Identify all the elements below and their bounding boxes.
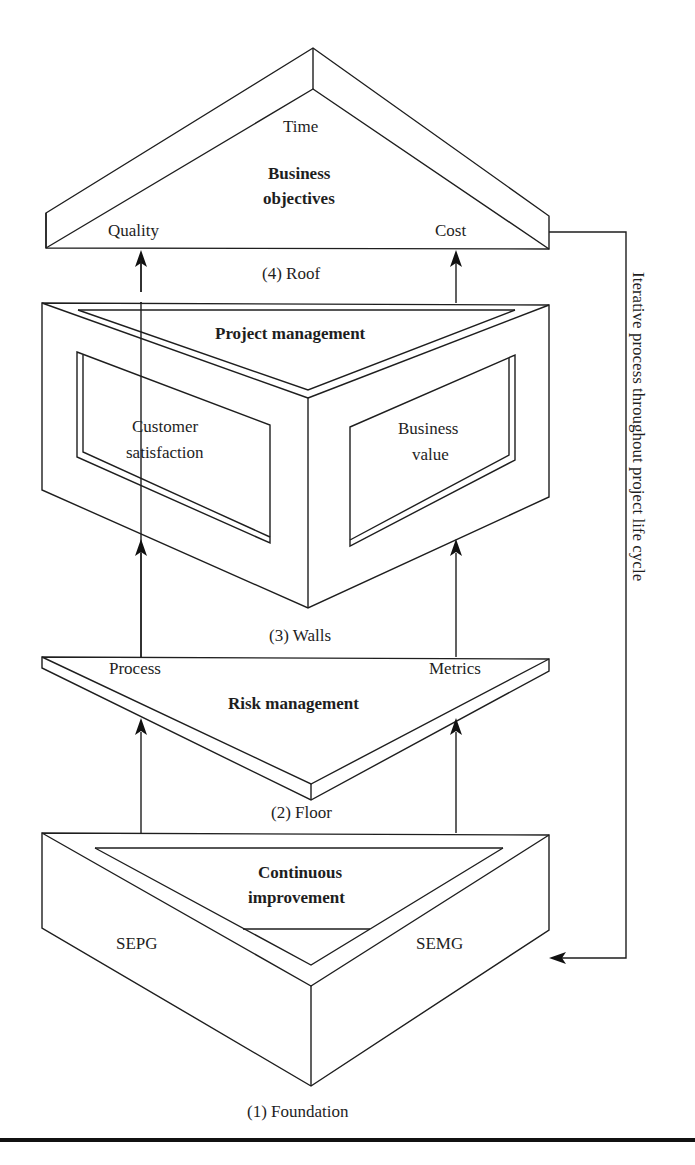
roof-left-label-quality: Quality [108, 220, 159, 242]
floor-level-label: (2) Floor [271, 802, 332, 824]
roof-title-line1: Business [268, 163, 330, 185]
roof-right-label-cost: Cost [435, 220, 466, 242]
foundation-title-line2: improvement [248, 887, 345, 909]
feedback-loop-label: Iterative process throughout project lif… [628, 272, 648, 581]
roof-level-label: (4) Roof [262, 263, 320, 285]
floor-title: Risk management [228, 693, 359, 715]
arrow-foundation-to-metrics [450, 718, 462, 833]
walls-right-window-line1: Business [398, 418, 458, 440]
floor-left-label-process: Process [109, 658, 161, 680]
foundation-left-label-sepg: SEPG [116, 933, 158, 955]
foundation-level-label: (1) Foundation [247, 1101, 349, 1123]
foundation-title-line1: Continuous [258, 862, 342, 884]
walls-left-window-line1: Customer [132, 416, 198, 438]
roof-shape [46, 48, 549, 249]
roof-apex-label-time: Time [283, 116, 318, 138]
roof-title-line2: objectives [263, 188, 335, 210]
figure-bottom-rule [0, 1138, 695, 1142]
floor-right-label-metrics: Metrics [429, 658, 481, 680]
arrow-metrics-up [450, 539, 462, 657]
arrow-foundation-to-process [135, 718, 147, 833]
feedback-loop-connector [549, 232, 626, 964]
walls-right-window-line2: value [412, 444, 449, 466]
foundation-right-label-semg: SEMG [416, 933, 463, 955]
walls-level-label: (3) Walls [269, 625, 331, 647]
walls-title: Project management [215, 323, 365, 345]
walls-shape [42, 303, 549, 608]
house-framework-diagram [0, 0, 695, 1165]
walls-left-window-line2: satisfaction [126, 442, 203, 464]
arrow-walls-to-cost [450, 250, 462, 303]
